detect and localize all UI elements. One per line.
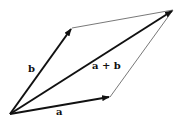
guide-line-a-to-sum <box>110 10 173 97</box>
label-b: b <box>28 64 35 74</box>
diagram-canvas <box>0 0 176 124</box>
label-a: a <box>56 107 62 117</box>
vector-diagram: b a + b a <box>0 0 176 124</box>
label-sum: a + b <box>92 61 121 71</box>
vector-b <box>10 29 71 114</box>
